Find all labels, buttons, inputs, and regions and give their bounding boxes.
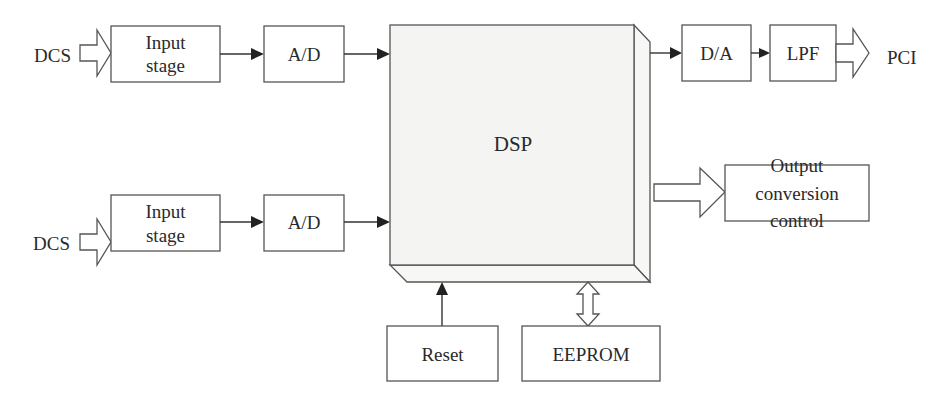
reset-label: Reset	[421, 344, 464, 365]
arrow-head-icon	[251, 216, 264, 228]
control-label-line2: conversion	[755, 183, 839, 204]
input-stage-bottom-line2: stage	[146, 225, 185, 246]
input-stage-top-line2: stage	[146, 55, 185, 76]
arrow-head-icon	[251, 48, 264, 60]
dsp-label: DSP	[494, 132, 533, 156]
input-stage-bottom-line1: Input	[145, 201, 186, 222]
arrow-head-icon	[377, 216, 390, 228]
input-stage-top-line1: Input	[145, 32, 186, 53]
hollow-arrow-dcs-bottom	[80, 219, 111, 265]
arrow-head-icon	[670, 47, 682, 59]
dcs-label-top: DCS	[34, 45, 71, 66]
lpf-label: LPF	[787, 43, 820, 64]
hollow-double-arrow-dsp-eeprom	[577, 282, 599, 326]
hollow-arrow-dcs-top	[80, 30, 111, 76]
ad-label-top: A/D	[288, 44, 321, 65]
dsp-block-diagram: DCS Input stage A/D DCS Input stage A/D …	[0, 0, 951, 401]
control-label-line3: control	[770, 210, 824, 231]
da-label: D/A	[700, 43, 733, 64]
dsp-bottom-face	[390, 265, 650, 282]
ad-label-bottom: A/D	[288, 212, 321, 233]
dcs-label-bottom: DCS	[33, 233, 70, 254]
hollow-arrow-dsp-control	[654, 168, 725, 217]
pci-label: PCI	[887, 47, 917, 68]
hollow-arrow-lpf-pci	[836, 29, 869, 77]
control-label-line1: Output	[771, 155, 825, 176]
dsp-side-face	[634, 25, 650, 282]
arrow-head-icon	[377, 48, 390, 60]
arrow-head-icon	[759, 48, 770, 58]
arrow-head-icon	[436, 282, 448, 295]
eeprom-label: EEPROM	[552, 344, 629, 365]
